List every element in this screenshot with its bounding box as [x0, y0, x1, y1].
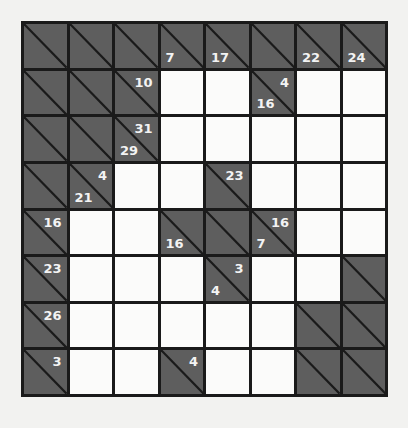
diagonal-divider	[70, 71, 113, 115]
across-clue: 4	[280, 76, 289, 89]
clue-cell: 167	[252, 211, 295, 255]
diagonal-divider	[343, 304, 386, 348]
entry-cell[interactable]	[70, 257, 113, 301]
block-cell	[297, 350, 340, 394]
entry-cell[interactable]	[115, 164, 158, 208]
across-clue: 23	[225, 169, 243, 182]
entry-cell[interactable]	[297, 164, 340, 208]
entry-cell[interactable]	[343, 164, 386, 208]
across-clue: 4	[98, 169, 107, 182]
clue-cell: 16	[24, 211, 67, 255]
across-clue: 3	[234, 262, 243, 275]
block-cell	[70, 71, 113, 115]
entry-cell[interactable]	[252, 117, 295, 161]
block-cell	[343, 350, 386, 394]
clue-cell: 416	[252, 71, 295, 115]
entry-cell[interactable]	[297, 71, 340, 115]
clue-cell: 22	[297, 24, 340, 68]
entry-cell[interactable]	[161, 117, 204, 161]
diagonal-divider	[343, 257, 386, 301]
entry-cell[interactable]	[161, 257, 204, 301]
clue-cell: 26	[24, 304, 67, 348]
across-clue: 26	[43, 309, 61, 322]
block-cell	[343, 304, 386, 348]
block-cell	[24, 117, 67, 161]
entry-cell[interactable]	[297, 211, 340, 255]
clue-cell: 24	[343, 24, 386, 68]
clue-cell: 7	[161, 24, 204, 68]
clue-cell: 23	[24, 257, 67, 301]
block-cell	[343, 257, 386, 301]
entry-cell[interactable]	[206, 71, 249, 115]
block-cell	[70, 117, 113, 161]
entry-cell[interactable]	[70, 304, 113, 348]
diagonal-divider	[24, 71, 67, 115]
clue-cell: 3	[24, 350, 67, 394]
down-clue: 22	[302, 51, 320, 64]
entry-cell[interactable]	[161, 164, 204, 208]
entry-cell[interactable]	[206, 117, 249, 161]
block-cell	[70, 24, 113, 68]
clue-cell: 10	[115, 71, 158, 115]
down-clue: 21	[75, 191, 93, 204]
clue-cell: 34	[206, 257, 249, 301]
entry-cell[interactable]	[343, 117, 386, 161]
block-cell	[24, 24, 67, 68]
across-clue: 4	[189, 355, 198, 368]
down-clue: 7	[257, 237, 266, 250]
diagonal-divider	[297, 304, 340, 348]
clue-cell: 3129	[115, 117, 158, 161]
across-clue: 16	[43, 216, 61, 229]
entry-cell[interactable]	[161, 304, 204, 348]
down-clue: 16	[166, 237, 184, 250]
entry-cell[interactable]	[70, 350, 113, 394]
down-clue: 24	[348, 51, 366, 64]
across-clue: 31	[134, 122, 152, 135]
block-cell	[115, 24, 158, 68]
entry-cell[interactable]	[161, 71, 204, 115]
entry-cell[interactable]	[115, 304, 158, 348]
entry-cell[interactable]	[70, 211, 113, 255]
across-clue: 3	[52, 355, 61, 368]
down-clue: 16	[257, 97, 275, 110]
entry-cell[interactable]	[206, 304, 249, 348]
across-clue: 23	[43, 262, 61, 275]
entry-cell[interactable]	[206, 350, 249, 394]
block-cell	[297, 304, 340, 348]
entry-cell[interactable]	[252, 164, 295, 208]
block-cell	[252, 24, 295, 68]
diagonal-divider	[343, 350, 386, 394]
entry-cell[interactable]	[343, 71, 386, 115]
down-clue: 7	[166, 51, 175, 64]
block-cell	[24, 71, 67, 115]
diagonal-divider	[297, 350, 340, 394]
block-cell	[206, 211, 249, 255]
down-clue: 17	[211, 51, 229, 64]
clue-cell: 421	[70, 164, 113, 208]
down-clue: 29	[120, 144, 138, 157]
entry-cell[interactable]	[252, 304, 295, 348]
entry-cell[interactable]	[252, 257, 295, 301]
diagonal-divider	[115, 24, 158, 68]
diagonal-divider	[252, 24, 295, 68]
diagonal-divider	[70, 24, 113, 68]
entry-cell[interactable]	[115, 257, 158, 301]
block-cell	[24, 164, 67, 208]
diagonal-divider	[206, 211, 249, 255]
across-clue: 10	[134, 76, 152, 89]
clue-cell: 23	[206, 164, 249, 208]
across-clue: 16	[271, 216, 289, 229]
entry-cell[interactable]	[115, 211, 158, 255]
down-clue: 4	[211, 284, 220, 297]
entry-cell[interactable]	[297, 257, 340, 301]
clue-cell: 17	[206, 24, 249, 68]
entry-cell[interactable]	[297, 117, 340, 161]
diagonal-divider	[70, 117, 113, 161]
diagonal-divider	[24, 117, 67, 161]
diagonal-divider	[24, 164, 67, 208]
entry-cell[interactable]	[115, 350, 158, 394]
entry-cell[interactable]	[343, 211, 386, 255]
entry-cell[interactable]	[252, 350, 295, 394]
clue-cell: 16	[161, 211, 204, 255]
diagonal-divider	[24, 24, 67, 68]
